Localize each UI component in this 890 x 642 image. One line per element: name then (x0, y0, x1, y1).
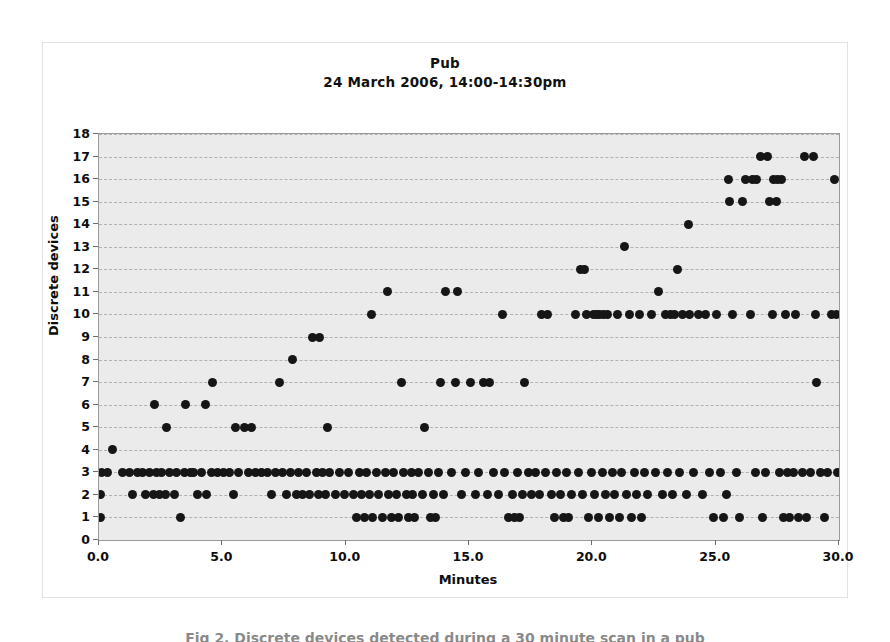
data-point (434, 468, 443, 477)
y-tick-label: 0 (50, 532, 90, 547)
data-point (383, 287, 392, 296)
data-point (809, 152, 818, 161)
x-tick-label: 30.0 (803, 549, 873, 564)
gridline-y (99, 269, 839, 270)
data-point (372, 468, 381, 477)
data-point (785, 513, 794, 522)
data-point (738, 197, 747, 206)
gridline-y (99, 224, 839, 225)
data-point (763, 152, 772, 161)
data-point (635, 310, 644, 319)
y-tick-label: 1 (50, 509, 90, 524)
gridline-y (99, 134, 839, 135)
data-point (543, 310, 552, 319)
data-point (128, 490, 137, 499)
data-point (162, 423, 171, 432)
data-point (590, 490, 599, 499)
y-tick-mark (93, 268, 98, 269)
x-tick-mark (591, 540, 592, 545)
data-point (587, 468, 596, 477)
x-axis-title: Minutes (98, 572, 838, 587)
data-point (531, 468, 540, 477)
x-tick-mark (838, 540, 839, 545)
data-point (323, 423, 332, 432)
data-point (643, 490, 652, 499)
data-point (578, 490, 587, 499)
data-point (791, 310, 800, 319)
data-point (698, 490, 707, 499)
data-point (758, 513, 767, 522)
data-point (466, 378, 475, 387)
data-point (752, 175, 761, 184)
data-point (176, 513, 185, 522)
data-point (321, 490, 330, 499)
data-point (378, 513, 387, 522)
data-point (761, 468, 770, 477)
data-point (580, 265, 589, 274)
y-tick-label: 5 (50, 419, 90, 434)
data-point (150, 400, 159, 409)
plot-area (98, 133, 840, 541)
data-point (806, 468, 815, 477)
data-point (286, 468, 295, 477)
data-point (820, 513, 829, 522)
x-tick-label: 20.0 (556, 549, 626, 564)
data-point (802, 513, 811, 522)
data-point (441, 287, 450, 296)
y-tick-label: 14 (50, 216, 90, 231)
y-tick-mark (93, 404, 98, 405)
data-point (325, 468, 334, 477)
data-point (625, 310, 634, 319)
data-point (181, 400, 190, 409)
data-point (208, 378, 217, 387)
y-tick-mark (93, 291, 98, 292)
data-point (663, 468, 672, 477)
data-point (658, 490, 667, 499)
y-tick-mark (93, 359, 98, 360)
data-point (302, 468, 311, 477)
y-tick-label: 15 (50, 193, 90, 208)
data-point (267, 490, 276, 499)
x-tick-mark (345, 540, 346, 545)
data-point (474, 468, 483, 477)
gridline-y (99, 337, 839, 338)
data-point (627, 513, 636, 522)
gridline-y (99, 450, 839, 451)
data-point (453, 287, 462, 296)
data-point (414, 468, 423, 477)
data-point (689, 468, 698, 477)
data-point (617, 468, 626, 477)
data-point (725, 197, 734, 206)
data-point (344, 468, 353, 477)
gridline-y (99, 360, 839, 361)
data-point (654, 287, 663, 296)
data-point (751, 468, 760, 477)
data-point (161, 490, 170, 499)
data-point (719, 513, 728, 522)
y-tick-label: 8 (50, 351, 90, 366)
y-tick-mark (93, 494, 98, 495)
data-point (632, 490, 641, 499)
y-tick-label: 13 (50, 238, 90, 253)
data-point (362, 468, 371, 477)
gridline-y (99, 292, 839, 293)
data-point (811, 310, 820, 319)
x-tick-label: 5.0 (186, 549, 256, 564)
data-point (562, 468, 571, 477)
data-point (431, 513, 440, 522)
data-point (722, 490, 731, 499)
data-point (439, 490, 448, 499)
data-point (420, 423, 429, 432)
data-point (675, 468, 684, 477)
data-point (709, 513, 718, 522)
data-point (833, 468, 839, 477)
data-point (830, 175, 839, 184)
x-tick-mark (468, 540, 469, 545)
data-point (193, 490, 202, 499)
y-tick-mark (93, 426, 98, 427)
data-point (732, 468, 741, 477)
y-tick-label: 4 (50, 441, 90, 456)
data-point (99, 490, 105, 499)
data-point (410, 513, 419, 522)
data-point (234, 468, 243, 477)
